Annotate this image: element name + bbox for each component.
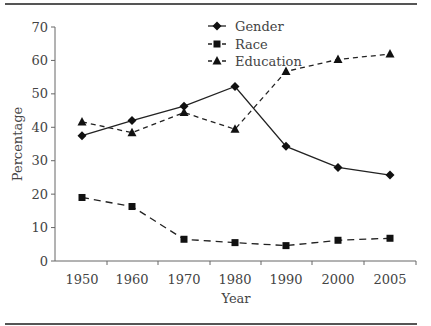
x-tick-label: 2005 bbox=[373, 272, 406, 287]
x-tick-label: 2000 bbox=[321, 272, 354, 287]
y-tick-label: 50 bbox=[31, 86, 48, 101]
race-square-marker-icon bbox=[181, 236, 188, 243]
legend-education-triangle-icon bbox=[213, 56, 222, 65]
race-square-marker-icon bbox=[335, 237, 342, 244]
x-tick-label: 1970 bbox=[167, 272, 200, 287]
x-axis-title: Year bbox=[220, 291, 251, 306]
x-tick-label: 1980 bbox=[218, 272, 251, 287]
y-axis-title: Percentage bbox=[10, 106, 25, 181]
y-tick-label: 60 bbox=[31, 53, 48, 68]
gender-diamond-marker-icon bbox=[78, 131, 87, 140]
x-tick-label: 1950 bbox=[65, 272, 98, 287]
line-chart: 0102030405060701950196019701980199020002… bbox=[0, 0, 431, 326]
legend-race-label: Race bbox=[235, 37, 268, 52]
legend-education-label: Education bbox=[235, 54, 302, 69]
legend-gender-diamond-icon bbox=[213, 22, 222, 31]
race-square-marker-icon bbox=[387, 235, 394, 242]
legend-gender-label: Gender bbox=[235, 19, 284, 34]
education-triangle-marker-icon bbox=[334, 54, 343, 63]
y-tick-label: 40 bbox=[31, 120, 48, 135]
x-tick-label: 1990 bbox=[269, 272, 302, 287]
race-square-marker-icon bbox=[129, 203, 136, 210]
y-tick-label: 10 bbox=[31, 220, 48, 235]
gender-diamond-marker-icon bbox=[334, 163, 343, 172]
race-square-marker-icon bbox=[232, 239, 239, 246]
race-series-line bbox=[82, 197, 390, 245]
race-square-marker-icon bbox=[79, 194, 86, 201]
race-square-marker-icon bbox=[283, 242, 290, 249]
gender-diamond-marker-icon bbox=[386, 171, 395, 180]
y-tick-label: 0 bbox=[40, 254, 48, 269]
y-tick-label: 70 bbox=[31, 20, 48, 35]
education-triangle-marker-icon bbox=[180, 108, 189, 117]
y-tick-label: 20 bbox=[31, 187, 48, 202]
y-tick-label: 30 bbox=[31, 153, 48, 168]
education-triangle-marker-icon bbox=[386, 49, 395, 58]
gender-diamond-marker-icon bbox=[128, 116, 137, 125]
x-tick-label: 1960 bbox=[115, 272, 148, 287]
legend-race-square-icon bbox=[214, 41, 221, 48]
education-triangle-marker-icon bbox=[78, 117, 87, 126]
